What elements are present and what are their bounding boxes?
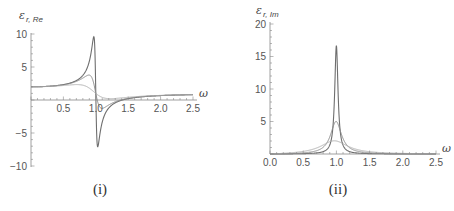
x-tick-label: 0.5 xyxy=(56,103,70,114)
left-y-axis-subscript: r, Re xyxy=(26,15,43,24)
y-tick-label: 20 xyxy=(255,19,267,30)
y-tick-label: 10 xyxy=(255,84,267,95)
real-part-curves xyxy=(31,37,193,147)
curve-gamma-0.06 xyxy=(31,37,193,147)
chart-imag-part: 0.00.51.01.52.02.55101520 ε r, Im ω xyxy=(255,4,451,168)
y-tick-label: −10 xyxy=(10,161,27,172)
curve-gamma-0.2 xyxy=(31,75,193,108)
right-y-axis-title: ε xyxy=(256,4,262,17)
chart-real-part: 0.51.01.52.02.5−10−5510 ε r, Re ω xyxy=(10,9,208,172)
y-tick-label: 10 xyxy=(16,29,28,40)
right-x-axis-title: ω xyxy=(442,142,451,155)
y-tick-label: 5 xyxy=(260,116,266,127)
caption-left: (i) xyxy=(93,181,107,198)
x-tick-label: 1.0 xyxy=(329,157,343,168)
imag-part-curves xyxy=(270,46,436,154)
x-tick-label: 1.0 xyxy=(89,103,103,114)
figure: 0.51.01.52.02.5−10−5510 ε r, Re ω 0.00.5… xyxy=(0,0,454,211)
y-tick-label: −5 xyxy=(16,128,28,139)
left-y-axis-title: ε xyxy=(19,9,25,22)
x-tick-label: 0.5 xyxy=(296,157,310,168)
curve-gamma-0.06 xyxy=(270,46,436,154)
x-tick-label: 2.0 xyxy=(396,157,410,168)
right-y-axis-subscript: r, Im xyxy=(263,10,279,19)
x-tick-label: 2.0 xyxy=(154,103,168,114)
curve-gamma-0.5 xyxy=(31,85,193,99)
y-tick-label: 15 xyxy=(255,51,267,62)
x-tick-label: 0.0 xyxy=(263,157,277,168)
caption-right: (ii) xyxy=(329,181,347,198)
left-x-axis-title: ω xyxy=(199,87,208,100)
x-tick-label: 2.5 xyxy=(186,103,200,114)
x-tick-label: 2.5 xyxy=(429,157,443,168)
y-tick-label: 5 xyxy=(21,62,27,73)
x-tick-label: 1.5 xyxy=(121,103,135,114)
curve-gamma-0.2 xyxy=(270,121,436,154)
x-tick-label: 1.5 xyxy=(363,157,377,168)
right-ticks: 0.00.51.01.52.02.55101520 xyxy=(255,19,444,169)
